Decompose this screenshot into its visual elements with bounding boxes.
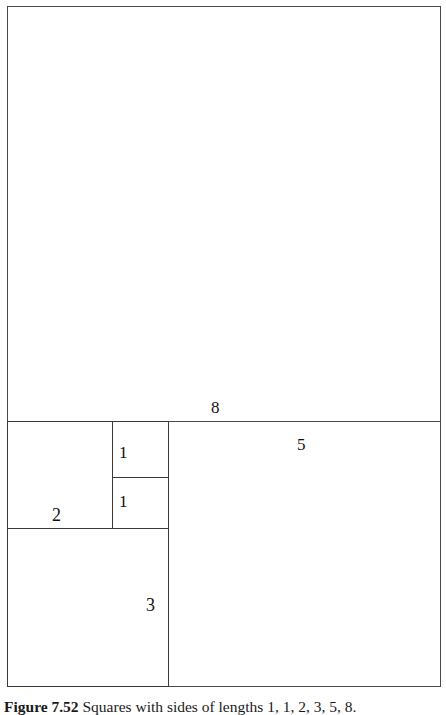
label-square-1-top: 1	[119, 444, 128, 461]
label-square-5: 5	[297, 436, 306, 453]
label-square-8: 8	[211, 399, 220, 416]
square-8	[7, 6, 441, 422]
label-square-2: 2	[52, 506, 61, 524]
square-3	[7, 528, 169, 687]
figure-page: 8 5 1 1 2 3 Figure 7.52 Squares with sid…	[0, 0, 446, 715]
square-5	[168, 421, 441, 687]
label-square-1-bottom: 1	[119, 493, 128, 510]
label-square-3: 3	[146, 596, 155, 614]
figure-caption-number: Figure 7.52	[4, 698, 79, 715]
fibonacci-squares-diagram: 8 5 1 1 2 3	[0, 0, 446, 692]
figure-caption-text: Squares with sides of lengths 1, 1, 2, 3…	[83, 698, 357, 715]
figure-caption: Figure 7.52 Squares with sides of length…	[4, 697, 446, 715]
